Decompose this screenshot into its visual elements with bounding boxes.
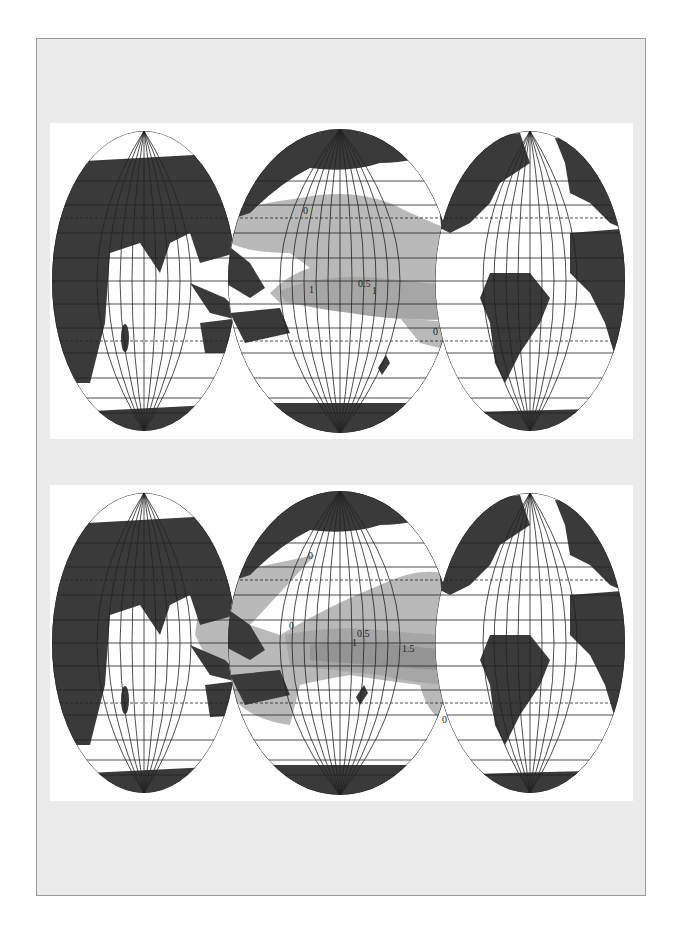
lobe-indian-ocean xyxy=(50,485,250,801)
lobe-pacific-ocean xyxy=(220,123,460,439)
contour-label: 0 xyxy=(308,550,313,561)
world-map-bottom: 0 0 0.5 1 1.5 0 xyxy=(50,485,633,801)
contour-label: 1.5 xyxy=(402,643,415,654)
contour-label: 1 xyxy=(309,284,314,295)
contour-label: 0 xyxy=(433,326,438,337)
lobe-atlantic-ocean xyxy=(430,485,633,801)
lobe-pacific-ocean xyxy=(220,485,460,801)
contour-label: 0 xyxy=(303,205,308,216)
contour-label: 0.5 xyxy=(358,278,371,289)
lobe-atlantic-ocean xyxy=(430,123,633,439)
contour-label: 1 xyxy=(352,637,357,648)
contour-label: 0.5 xyxy=(357,628,370,639)
contour-label: 1 xyxy=(372,285,377,296)
contour-label: 0 xyxy=(442,714,447,725)
map-panel-bottom: 0 0 0.5 1 1.5 0 xyxy=(50,485,633,801)
map-panel-top: 0 0.5 1 1 0 xyxy=(50,123,633,439)
lobe-indian-ocean xyxy=(50,123,250,439)
world-map-top: 0 0.5 1 1 0 xyxy=(50,123,633,439)
contour-label: 0 xyxy=(289,620,294,631)
